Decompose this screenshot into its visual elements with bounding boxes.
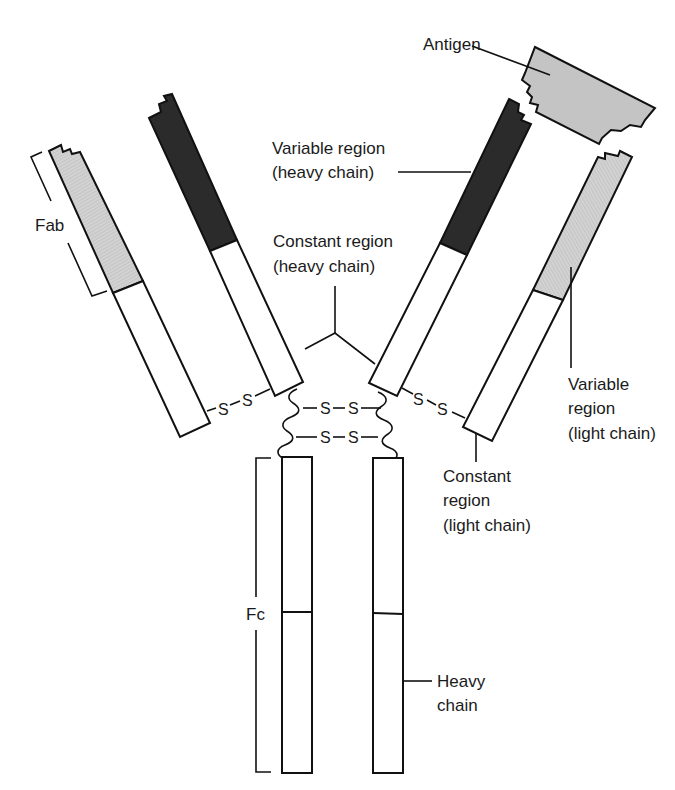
left-disulfide-s1: S [218,401,229,418]
center-lower-disulfide-s2: S [348,429,359,446]
antibody-diagram: S S S S S S S S [0,0,675,790]
fc-label: Fc [246,605,265,624]
antigen-shape [522,47,655,144]
left-light-chain-constant-region [113,281,210,437]
left-fc-heavy-chain [282,457,312,773]
center-upper-disulfide-s2: S [348,400,359,417]
fab-label: Fab [35,216,64,235]
variable-light-label-line1: Variable [568,375,629,394]
hinge-region: S S S S [278,389,397,466]
constant-light-label-line1: Constant [443,467,511,486]
right-heavy-chain-variable-region [440,99,531,255]
constant-heavy-label-line2: (heavy chain) [273,257,375,276]
constant-light-label-line2: region [443,491,490,510]
fc-stem [282,457,403,773]
constant-light-label-line3: (light chain) [443,516,531,535]
right-disulfide-s1: S [413,391,424,408]
right-fc-heavy-chain [373,458,403,773]
center-lower-disulfide-s1: S [320,429,331,446]
right-disulfide-s2: S [437,401,448,418]
variable-heavy-label-line1: Variable region [272,139,385,158]
variable-light-label-line2: region [568,399,615,418]
right-light-chain-constant-region [463,290,563,441]
constant-heavy-leader-line [305,333,375,364]
antigen-label: Antigen [423,35,481,54]
variable-heavy-label-line2: (heavy chain) [272,163,374,182]
left-disulfide-s2: S [242,392,253,409]
right-heavy-chain-constant-region [369,243,467,396]
variable-light-label-line3: (light chain) [568,424,656,443]
heavy-chain-label-line1: Heavy [437,672,486,691]
left-fab-arm: S S [49,94,303,437]
heavy-chain-label-line2: chain [437,696,478,715]
right-light-chain-variable-region [533,151,632,300]
center-upper-disulfide-s1: S [320,400,331,417]
left-heavy-chain-variable-region [149,94,237,251]
constant-heavy-label-line1: Constant region [273,232,393,251]
